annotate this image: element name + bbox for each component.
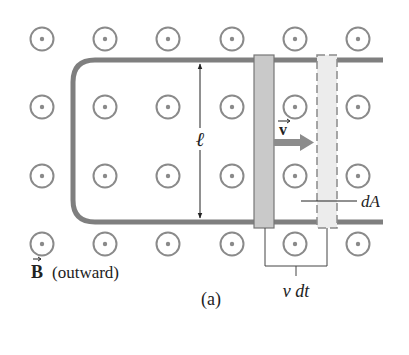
- field-out-of-page-icon: [31, 233, 54, 256]
- field-out-of-page-icon: [221, 96, 244, 119]
- field-out-of-page-icon: [94, 165, 117, 188]
- sliding-bar-later-position: [317, 55, 337, 228]
- area-label: dA: [361, 192, 381, 211]
- field-out-of-page-icon: [347, 165, 370, 188]
- field-out-of-page-icon: [157, 165, 180, 188]
- field-out-of-page-icon: [157, 28, 180, 51]
- field-out-of-page-icon: [221, 28, 244, 51]
- field-out-of-page-icon: [221, 233, 244, 256]
- field-out-of-page-icon: [284, 233, 307, 256]
- field-out-of-page-icon: [284, 28, 307, 51]
- field-out-of-page-icon: [94, 96, 117, 119]
- diagram-canvas: ℓ v dA v dt B (outward) (a): [0, 0, 409, 355]
- panel-label: (a): [201, 289, 221, 310]
- length-dimension: ℓ: [196, 64, 205, 218]
- field-out-of-page-icon: [157, 233, 180, 256]
- field-out-of-page-icon: [347, 233, 370, 256]
- field-out-of-page-icon: [157, 96, 180, 119]
- field-symbol: B: [31, 262, 43, 282]
- field-out-of-page-icon: [284, 96, 307, 119]
- length-label: ℓ: [196, 128, 205, 150]
- field-out-of-page-icon: [94, 233, 117, 256]
- field-out-of-page-icon: [347, 96, 370, 119]
- field-description: (outward): [52, 263, 119, 282]
- velocity-label: v: [279, 121, 287, 138]
- field-out-of-page-icon: [284, 165, 307, 188]
- field-label: B (outward): [31, 257, 119, 282]
- field-out-of-page-icon: [347, 28, 370, 51]
- field-out-of-page-icon: [94, 28, 117, 51]
- velocity-arrow: v: [274, 119, 314, 151]
- field-out-of-page-icon: [31, 165, 54, 188]
- field-out-of-page-icon: [31, 28, 54, 51]
- field-out-of-page-icon: [31, 96, 54, 119]
- sliding-bar: [254, 55, 274, 228]
- displacement-label: v dt: [283, 281, 310, 301]
- area-element-annotation: dA: [301, 192, 381, 211]
- field-out-of-page-icon: [221, 165, 244, 188]
- displacement-bracket: v dt: [265, 228, 327, 301]
